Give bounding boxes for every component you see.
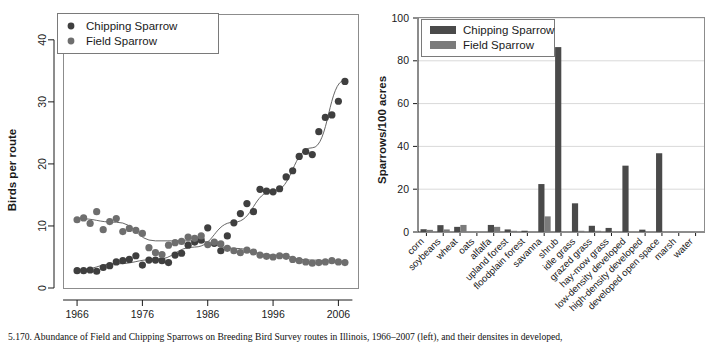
scatter-point [204, 224, 211, 231]
scatter-point [80, 214, 87, 221]
legend-label-chipping: Chipping Sparrow [86, 20, 178, 32]
svg-text:1966: 1966 [65, 308, 89, 320]
bar-legend-label-field: Field Sparrow [463, 39, 535, 51]
bar [572, 203, 578, 232]
scatter-point [87, 266, 94, 273]
scatter-svg: Birds per route 010203040196619761986199… [0, 0, 372, 330]
svg-text:1976: 1976 [131, 308, 155, 320]
bar [505, 229, 511, 232]
scatter-point [100, 264, 107, 271]
scatter-point [93, 208, 100, 215]
svg-text:20: 20 [36, 158, 48, 170]
bar [454, 227, 460, 232]
scatter-point [204, 241, 211, 248]
scatter-point [132, 252, 139, 259]
scatter-point [341, 259, 348, 266]
scatter-point [93, 268, 100, 275]
scatter-point [283, 173, 290, 180]
scatter-point [302, 258, 309, 265]
scatter-point [237, 210, 244, 217]
scatter-point [152, 249, 159, 256]
bar-rects [421, 47, 663, 232]
svg-text:10: 10 [36, 220, 48, 232]
scatter-point [263, 253, 270, 260]
svg-text:100: 100 [391, 12, 409, 24]
scatter-point [243, 247, 250, 254]
scatter-point [106, 262, 113, 269]
scatter-point [145, 244, 152, 251]
bar [555, 47, 561, 232]
scatter-point [158, 257, 165, 264]
svg-text:80: 80 [397, 54, 409, 66]
right-y-axis-title: Sparrows/100 acres [376, 76, 388, 184]
legend-marker-field-icon [68, 38, 75, 45]
bar-category-labels: cornsoybeanswheatoatsalfalfaupland fores… [405, 235, 696, 313]
scatter-point [237, 249, 244, 256]
scatter-point [185, 234, 192, 241]
scatter-point [217, 240, 224, 247]
scatter-point [296, 257, 303, 264]
svg-text:20: 20 [397, 183, 409, 195]
scatter-plot-frame [64, 15, 359, 289]
scatter-point [269, 253, 276, 260]
scatter-point [80, 267, 87, 274]
scatter-point [113, 215, 120, 222]
svg-text:0: 0 [36, 285, 48, 291]
scatter-point [152, 256, 159, 263]
svg-text:1986: 1986 [196, 308, 220, 320]
scatter-point [132, 227, 139, 234]
scatter-point [73, 216, 80, 223]
scatter-point [106, 218, 113, 225]
scatter-point [139, 230, 146, 237]
left-y-axis-title: Birds per route [6, 129, 18, 211]
scatter-point [309, 151, 316, 158]
left-scatter-panel: Birds per route 010203040196619761986199… [0, 0, 372, 330]
bar-category-label: water [670, 235, 696, 261]
scatter-point [230, 247, 237, 254]
scatter-point [309, 260, 316, 267]
svg-text:0: 0 [403, 226, 409, 238]
scatter-point [322, 114, 329, 121]
scatter-point [263, 188, 270, 195]
scatter-point [250, 208, 257, 215]
bar [427, 230, 433, 232]
right-bar-panel: Sparrows/100 acres 020406080100 cornsoyb… [372, 0, 723, 330]
bar-legend-label-chipping: Chipping Sparrow [463, 24, 555, 36]
scatter-point [341, 78, 348, 85]
scatter-point [256, 252, 263, 259]
scatter-point [126, 256, 133, 263]
svg-text:2006: 2006 [327, 308, 351, 320]
svg-text:40: 40 [397, 140, 409, 152]
scatter-point [283, 253, 290, 260]
bar [421, 229, 427, 232]
scatter-point [145, 256, 152, 263]
scatter-point [165, 242, 172, 249]
legend-swatch-field-icon [430, 41, 456, 49]
scatter-point [335, 258, 342, 265]
scatter-point [256, 186, 263, 193]
bar [578, 231, 584, 232]
scatter-point [171, 252, 178, 259]
scatter-points [73, 78, 348, 275]
bar [494, 227, 500, 232]
bar [622, 166, 628, 232]
scatter-axes [48, 40, 352, 306]
legend-label-field: Field Sparrow [86, 35, 158, 47]
figure-caption: 5.170. Abundance of Field and Chipping S… [8, 331, 718, 343]
scatter-point [119, 257, 126, 264]
scatter-point [269, 188, 276, 195]
scatter-point [178, 238, 185, 245]
scatter-point [217, 247, 224, 254]
bar-legend[interactable]: Chipping Sparrow Field Sparrow [422, 20, 556, 57]
bar [488, 225, 494, 232]
figure-container: Birds per route 010203040196619761986199… [0, 0, 723, 352]
scatter-point [243, 200, 250, 207]
scatter-point [289, 256, 296, 263]
bar [589, 226, 595, 232]
scatter-point [276, 252, 283, 259]
scatter-legend[interactable]: Chipping Sparrow Field Sparrow [58, 14, 219, 54]
scatter-point [178, 250, 185, 257]
svg-text:40: 40 [36, 34, 48, 46]
scatter-point [113, 258, 120, 265]
scatter-point [315, 259, 322, 266]
